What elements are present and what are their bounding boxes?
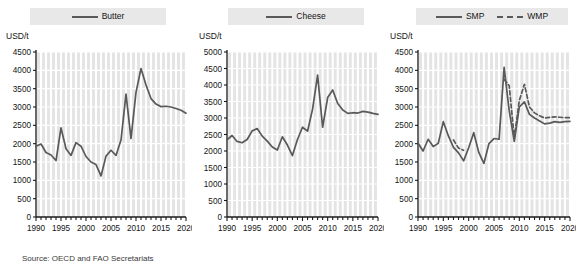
- svg-text:5000: 5000: [204, 48, 223, 57]
- dashed-line-swatch-icon: [497, 16, 523, 18]
- svg-text:2010: 2010: [319, 224, 338, 233]
- svg-text:1990: 1990: [218, 224, 237, 233]
- legend-label-butter: Butter: [102, 12, 125, 21]
- plot-area-butter: 0500100015002000250030003500400045001990…: [0, 42, 192, 247]
- svg-text:2010: 2010: [510, 224, 529, 233]
- svg-text:2500: 2500: [204, 131, 223, 140]
- line-swatch-icon: [72, 16, 98, 18]
- dairy-price-charts-figure: Butter USD/t 050010001500200025003000350…: [0, 0, 577, 267]
- source-note: Source: OECD and FAO Secretariats: [22, 254, 154, 263]
- svg-text:1990: 1990: [27, 224, 46, 233]
- svg-text:2005: 2005: [293, 224, 312, 233]
- svg-text:3000: 3000: [395, 103, 414, 112]
- svg-text:4000: 4000: [13, 66, 32, 75]
- legend-entry-wmp: WMP: [497, 12, 548, 21]
- svg-text:2015: 2015: [344, 224, 363, 233]
- svg-text:0: 0: [217, 213, 222, 222]
- svg-text:3000: 3000: [13, 103, 32, 112]
- chart-panel-butter: Butter USD/t 050010001500200025003000350…: [0, 0, 192, 250]
- plot-area-milk-powders: 0500100015002000250030003500400045001990…: [384, 42, 576, 247]
- svg-text:1000: 1000: [13, 176, 32, 185]
- svg-text:500: 500: [17, 195, 31, 204]
- svg-text:4000: 4000: [204, 81, 223, 90]
- svg-text:2020: 2020: [369, 224, 384, 233]
- legend-milk-powders: SMP WMP: [416, 8, 568, 25]
- y-axis-unit-label: USD/t: [199, 31, 222, 41]
- legend-label-wmp: WMP: [527, 12, 548, 21]
- legend-butter: Butter: [30, 8, 166, 25]
- svg-text:1995: 1995: [243, 224, 262, 233]
- svg-text:500: 500: [208, 197, 222, 206]
- svg-text:1500: 1500: [13, 158, 32, 167]
- svg-text:2000: 2000: [13, 140, 32, 149]
- svg-text:1995: 1995: [434, 224, 453, 233]
- line-swatch-icon: [266, 16, 292, 18]
- svg-text:2000: 2000: [77, 224, 96, 233]
- svg-text:2500: 2500: [13, 121, 32, 130]
- svg-text:1000: 1000: [204, 180, 223, 189]
- svg-text:2015: 2015: [152, 224, 171, 233]
- svg-text:2500: 2500: [395, 121, 414, 130]
- svg-text:3500: 3500: [204, 98, 223, 107]
- svg-text:4500: 4500: [204, 65, 223, 74]
- svg-text:1995: 1995: [52, 224, 71, 233]
- chart-panel-cheese: Cheese USD/t 050010001500200025003000350…: [192, 0, 384, 250]
- legend-entry-butter: Butter: [72, 12, 125, 21]
- svg-text:2020: 2020: [177, 224, 192, 233]
- svg-text:2000: 2000: [395, 140, 414, 149]
- legend-entry-cheese: Cheese: [266, 12, 325, 21]
- svg-text:3500: 3500: [395, 85, 414, 94]
- plot-area-cheese: 0500100015002000250030003500400045005000…: [192, 42, 384, 247]
- legend-label-cheese: Cheese: [296, 12, 325, 21]
- svg-text:2005: 2005: [485, 224, 504, 233]
- legend-label-smp: SMP: [466, 12, 484, 21]
- svg-text:1000: 1000: [395, 176, 414, 185]
- svg-text:4500: 4500: [13, 48, 32, 57]
- svg-text:1500: 1500: [204, 164, 223, 173]
- svg-text:0: 0: [408, 213, 413, 222]
- svg-text:2000: 2000: [460, 224, 479, 233]
- svg-text:4000: 4000: [395, 66, 414, 75]
- svg-text:1500: 1500: [395, 158, 414, 167]
- legend-entry-smp: SMP: [436, 12, 484, 21]
- svg-text:2005: 2005: [102, 224, 121, 233]
- svg-text:2015: 2015: [536, 224, 555, 233]
- chart-panel-milk-powders: SMP WMP USD/t 05001000150020002500300035…: [384, 0, 576, 250]
- svg-text:1990: 1990: [409, 224, 428, 233]
- svg-text:0: 0: [26, 213, 31, 222]
- y-axis-unit-label: USD/t: [6, 31, 29, 41]
- svg-text:2020: 2020: [561, 224, 576, 233]
- svg-text:2010: 2010: [127, 224, 146, 233]
- svg-text:3500: 3500: [13, 85, 32, 94]
- svg-text:2000: 2000: [268, 224, 287, 233]
- svg-text:500: 500: [399, 195, 413, 204]
- y-axis-unit-label: USD/t: [390, 31, 413, 41]
- legend-cheese: Cheese: [228, 8, 364, 25]
- svg-text:2000: 2000: [204, 147, 223, 156]
- line-swatch-icon: [436, 16, 462, 18]
- svg-text:3000: 3000: [204, 114, 223, 123]
- svg-text:4500: 4500: [395, 48, 414, 57]
